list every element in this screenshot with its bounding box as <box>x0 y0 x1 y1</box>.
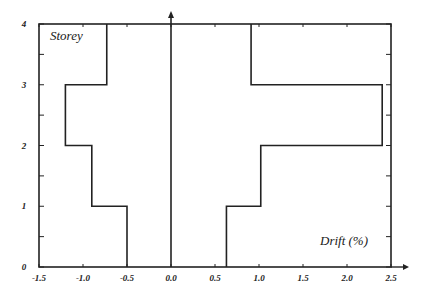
drift-profile-chart: -1.5-1.0-0.50.00.51.01.52.02.501234 Stor… <box>0 0 423 288</box>
y-tick-label: 1 <box>22 201 27 211</box>
y-tick-label: 2 <box>21 141 27 151</box>
x-tick-label: 0.5 <box>209 273 221 283</box>
y-tick-label: 4 <box>21 19 27 29</box>
x-tick-label: 0.0 <box>165 273 177 283</box>
x-tick-label: -1.5 <box>32 273 47 283</box>
x-axis-title: Drift (%) <box>319 233 368 248</box>
y-tick-label: 3 <box>21 80 27 90</box>
plot-frame <box>39 11 409 270</box>
x-tick-label: 1.5 <box>297 273 309 283</box>
x-tick-label: 2.0 <box>340 273 353 283</box>
negative-drift-profile <box>65 24 127 267</box>
positive-drift-profile <box>226 24 382 267</box>
y-tick-label: 0 <box>22 262 27 272</box>
x-tick-label: -0.5 <box>120 273 135 283</box>
data-series <box>65 24 382 267</box>
x-tick-label: 2.5 <box>384 273 397 283</box>
x-tick-label: -1.0 <box>76 273 91 283</box>
y-axis-title: Storey <box>50 28 83 43</box>
x-axis-arrow-icon <box>403 264 409 270</box>
x-tick-label: 1.0 <box>253 273 265 283</box>
y-axis-arrow-icon <box>168 11 174 18</box>
